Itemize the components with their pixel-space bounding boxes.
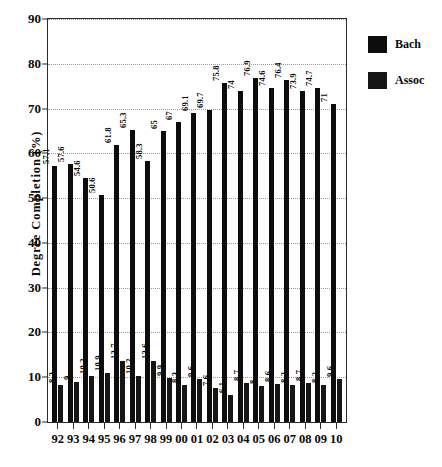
bar-group: 659.9	[158, 19, 173, 422]
chart-legend: Bach Assoc	[368, 36, 442, 108]
x-axis-tick-slot	[65, 423, 80, 430]
x-axis-tick-label: 07	[282, 432, 297, 454]
x-axis-tick-label: 94	[81, 432, 96, 454]
x-axis-tick-mark	[336, 423, 337, 429]
bar-value-label: 74.7	[304, 70, 314, 86]
bar-value-label: 9	[62, 375, 72, 379]
y-axis-tick-label: 70	[28, 101, 41, 117]
bar-value-label: 65.3	[118, 112, 128, 128]
bar-assoc-95: 10.9	[105, 373, 110, 422]
x-axis-tick-label: 09	[313, 432, 328, 454]
bar-group: 719.6	[328, 19, 343, 422]
bar-group: 678.3	[174, 19, 189, 422]
bar-assoc-05: 8	[259, 386, 264, 422]
bar-value-label: 73.9	[288, 73, 298, 89]
x-axis-tick-slot	[328, 423, 343, 430]
y-axis-tick-label: 80	[28, 56, 41, 72]
x-axis-tick-label: 04	[236, 432, 251, 454]
bar-slot: 8.3	[58, 19, 63, 422]
bar-slot: 71	[331, 19, 336, 422]
x-axis-tick-label: 95	[96, 432, 111, 454]
y-axis-tick-labels: 0102030405060708090	[0, 18, 47, 423]
bar-value-label: 76.4	[273, 62, 283, 78]
x-axis-tick-slot	[174, 423, 189, 430]
bar-assoc-03: 6.1	[228, 395, 233, 422]
x-axis-tick-slot	[189, 423, 204, 430]
x-axis-tick-label: 93	[65, 432, 80, 454]
x-axis-tick-label: 99	[158, 432, 173, 454]
bar-value-label: 69.1	[180, 95, 190, 111]
bar-slot: 65	[161, 19, 166, 422]
bar-slot: 9.6	[197, 19, 202, 422]
x-axis-tick-slot	[50, 423, 65, 430]
y-axis-tick-label: 20	[28, 324, 41, 340]
legend-item-bach: Bach	[368, 36, 442, 53]
x-axis-tick-mark	[57, 423, 58, 429]
x-axis-tick-slot	[267, 423, 282, 430]
bar-bach-98: 58.3	[145, 161, 150, 422]
bar-slot: 74.6	[269, 19, 274, 422]
bar-slot: 57.6	[68, 19, 73, 422]
bar-group: 748.7	[236, 19, 251, 422]
bar-value-label: 69.7	[195, 92, 205, 108]
bar-assoc-06: 8.6	[275, 384, 280, 423]
legend-swatch-assoc	[368, 72, 387, 89]
x-axis-tick-slot	[236, 423, 251, 430]
bar-value-label: 76.9	[242, 60, 252, 76]
x-axis-tick-label: 92	[50, 432, 65, 454]
x-axis-tick-slot	[313, 423, 328, 430]
bar-value-label: 8.2	[310, 372, 320, 383]
bar-bach-95: 50.6	[99, 195, 104, 422]
bar-value-label: 9.6	[325, 366, 335, 377]
x-axis-tick-labels: 92939495969798990001020304050607080910	[48, 432, 346, 454]
x-axis-tick-slot	[298, 423, 313, 430]
bar-value-label: 8.6	[263, 370, 273, 381]
bar-slot: 9.6	[337, 19, 342, 422]
x-axis-tick-label: 02	[205, 432, 220, 454]
bar-assoc-97: 10.2	[136, 376, 141, 422]
x-axis-tick-mark	[135, 423, 136, 429]
bar-assoc-92: 8.3	[58, 385, 63, 422]
x-axis-tick-slot	[205, 423, 220, 430]
bar-slot: 57.1	[52, 19, 57, 422]
bar-slot: 10.9	[105, 19, 110, 422]
bar-value-label: 9.6	[186, 366, 196, 377]
x-axis-tick-mark	[88, 423, 89, 429]
x-axis-tick-mark	[258, 423, 259, 429]
bar-slot: 58.3	[145, 19, 150, 422]
x-axis-tick-label: 98	[143, 432, 158, 454]
bar-bach-96: 61.8	[114, 145, 119, 422]
bar-value-label: 6.1	[217, 381, 227, 392]
y-axis-tick-label: 50	[28, 190, 41, 206]
x-axis-tick-slot	[127, 423, 142, 430]
legend-swatch-bach	[368, 36, 387, 53]
x-axis-tick-label: 00	[174, 432, 189, 454]
bar-assoc-99: 9.9	[167, 378, 172, 422]
x-axis-tick-label: 01	[189, 432, 204, 454]
y-axis-tick-label: 60	[28, 145, 41, 161]
bar-value-label: 8.3	[170, 372, 180, 383]
bar-slot: 8.2	[321, 19, 326, 422]
x-axis-tick-mark	[104, 423, 105, 429]
bar-value-label: 61.8	[103, 128, 113, 144]
bar-value-label: 75.8	[211, 65, 221, 81]
x-axis-tick-mark	[119, 423, 120, 429]
x-axis-tick-mark	[73, 423, 74, 429]
x-axis-tick-mark	[212, 423, 213, 429]
bar-group: 57.18.3	[50, 19, 65, 422]
x-axis-tick-mark	[227, 423, 228, 429]
bar-slot: 13.6	[151, 19, 156, 422]
x-axis-tick-label: 03	[220, 432, 235, 454]
bar-assoc-10: 9.6	[337, 379, 342, 422]
bar-value-label: 74	[226, 80, 236, 89]
bar-slot: 69.1	[191, 19, 196, 422]
bar-value-label: 8.7	[294, 370, 304, 381]
bar-value-label: 10.9	[93, 356, 103, 372]
bar-value-label: 9.9	[155, 364, 165, 375]
x-axis-tick-slot	[158, 423, 173, 430]
x-axis-tick-slot	[220, 423, 235, 430]
bar-bach-07: 76.4	[284, 80, 289, 422]
bar-group: 74.78.2	[313, 19, 328, 422]
bar-bach-94: 54.6	[83, 178, 88, 422]
x-axis-tick-slot	[81, 423, 96, 430]
